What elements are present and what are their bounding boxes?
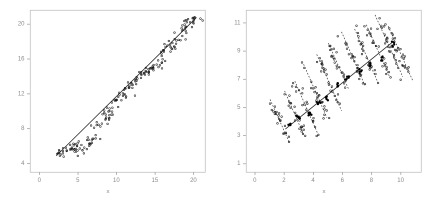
left-plot-canvas [0, 0, 216, 206]
right-plot-canvas [216, 0, 432, 206]
right-scatter-panel: x [216, 0, 432, 206]
right-x-axis-label: x [216, 188, 432, 194]
left-x-axis-label: x [0, 188, 216, 194]
scatter-plot-figure: x x [0, 0, 432, 206]
left-scatter-panel: x [0, 0, 216, 206]
